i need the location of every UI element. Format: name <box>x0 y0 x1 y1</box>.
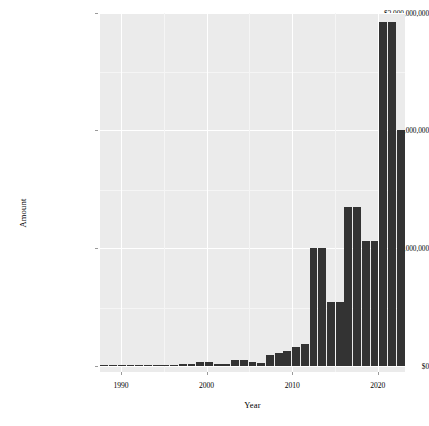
bar <box>336 302 344 366</box>
bar <box>127 365 135 366</box>
x-tick-label-3: 2020 <box>358 381 398 390</box>
x-tick-mark-1 <box>207 372 208 375</box>
bar <box>214 364 222 366</box>
gridline-minor-v <box>249 13 250 372</box>
gridline-major-h <box>100 13 405 14</box>
x-axis-title: Year <box>100 400 405 410</box>
bar <box>397 130 405 367</box>
bar <box>327 302 335 366</box>
bar <box>196 362 204 366</box>
x-tick-label-0: 1990 <box>101 381 141 390</box>
bar <box>179 364 187 366</box>
bar <box>266 355 274 366</box>
x-tick-mark-0 <box>121 372 122 375</box>
bar <box>170 365 178 366</box>
gridline-minor-h <box>100 72 405 73</box>
x-tick-mark-3 <box>378 372 379 375</box>
bar <box>205 362 213 366</box>
bar <box>188 364 196 366</box>
bar <box>144 365 152 366</box>
gridline-major-h <box>100 366 405 367</box>
bar <box>275 353 283 366</box>
bar <box>257 363 265 366</box>
bar <box>135 365 143 366</box>
bar <box>109 365 117 366</box>
bar <box>161 365 169 366</box>
bar <box>231 360 239 366</box>
bar <box>310 248 318 366</box>
bar <box>283 351 291 366</box>
bar-chart: Amount $0 $1,000,000,000 $2,000,000,000 … <box>0 0 429 426</box>
bar <box>388 22 396 366</box>
x-tick-label-2: 2010 <box>272 381 312 390</box>
bar <box>222 364 230 366</box>
plot-panel <box>100 13 405 372</box>
bar <box>292 347 300 366</box>
gridline-major-v <box>292 13 293 372</box>
bar <box>249 362 257 366</box>
bar <box>344 207 352 366</box>
y-tick-mark-2 <box>95 130 98 131</box>
x-tick-label-1: 2000 <box>187 381 227 390</box>
y-tick-mark-1 <box>95 248 98 249</box>
bar <box>153 365 161 366</box>
bar <box>379 22 387 366</box>
gridline-minor-h <box>100 190 405 191</box>
bar <box>371 241 379 366</box>
y-axis-title: Amount <box>16 0 30 426</box>
gridline-major-v <box>207 13 208 372</box>
bar <box>240 360 248 366</box>
y-tick-mark-0 <box>95 366 98 367</box>
y-tick-mark-3 <box>95 13 98 14</box>
bar <box>118 365 126 366</box>
gridline-minor-v <box>164 13 165 372</box>
bar <box>362 241 370 366</box>
bar <box>301 344 309 366</box>
bar <box>318 248 326 366</box>
bar <box>100 365 108 366</box>
x-tick-mark-2 <box>292 372 293 375</box>
gridline-major-v <box>121 13 122 372</box>
bar <box>353 207 361 366</box>
gridline-major-h <box>100 130 405 131</box>
